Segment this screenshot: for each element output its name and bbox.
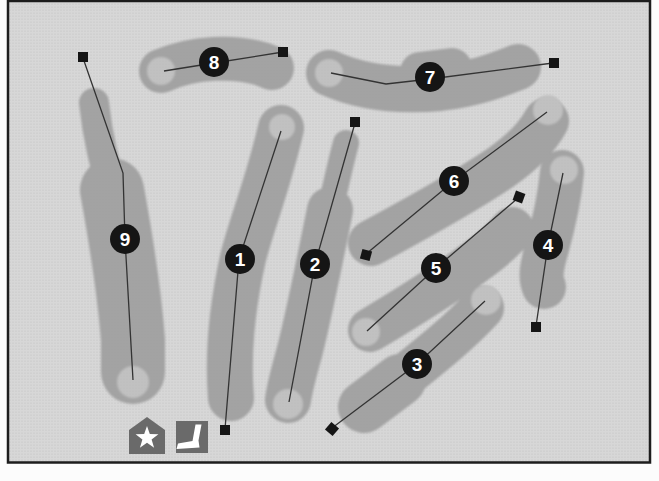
hole-7-number-text: 7 — [425, 67, 436, 88]
hole-1-tee-marker — [220, 425, 230, 435]
hole-9-number-text: 9 — [120, 229, 131, 250]
hole-2-number-badge: 2 — [300, 249, 330, 279]
hole-1-number-badge: 1 — [225, 244, 255, 274]
hole-9-number-badge: 9 — [110, 224, 140, 254]
hole-3-number-badge: 3 — [402, 349, 432, 379]
hole-9-tee-marker — [78, 52, 88, 62]
hole-8-number-text: 8 — [209, 52, 220, 73]
hole-6-number-text: 6 — [449, 171, 460, 192]
hole-7-number-badge: 7 — [415, 62, 445, 92]
hole-2-tee-marker — [350, 117, 360, 127]
hole-5-number-text: 5 — [431, 258, 442, 279]
hole-4-tee-marker — [531, 322, 541, 332]
hole-7-tee-marker — [549, 58, 559, 68]
putter-icon — [176, 421, 208, 453]
hole-5-number-badge: 5 — [421, 253, 451, 283]
hole-6-number-badge: 6 — [439, 166, 469, 196]
scanned-page: 123456789 — [0, 0, 659, 481]
hole-3-number-text: 3 — [412, 354, 423, 375]
hole-8-number-badge: 8 — [199, 47, 229, 77]
hole-4-number-badge: 4 — [533, 230, 563, 260]
hole-4-number-text: 4 — [543, 235, 554, 256]
hole-1-number-text: 1 — [235, 249, 246, 270]
golf-course-map: 123456789 — [0, 0, 659, 481]
hole-2-number-text: 2 — [310, 254, 321, 275]
hole-8-tee-marker — [278, 47, 288, 57]
